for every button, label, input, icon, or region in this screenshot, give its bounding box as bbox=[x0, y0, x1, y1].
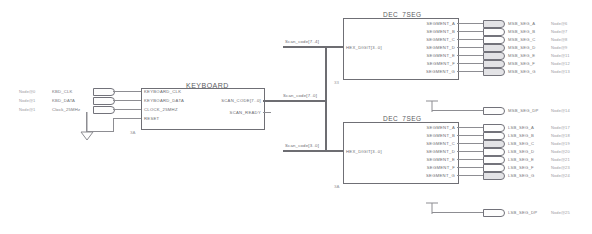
output-label-msb-seg-f: MSB_SEG_F bbox=[508, 61, 535, 66]
output-label-lsb-seg-c: LSB_SEG_C bbox=[508, 141, 534, 146]
output-pin-msb-seg-d[interactable] bbox=[483, 44, 505, 52]
keyboard-port-reset: RESET bbox=[144, 116, 159, 121]
output-label-lsb-seg-a: LSB_SEG_A bbox=[508, 125, 534, 130]
dec-lsb-port-segment-b: SEGMENT_B bbox=[377, 133, 455, 138]
wire-msb-c bbox=[457, 39, 483, 40]
dec-lsb-port-segment-g: SEGMENT_G bbox=[377, 173, 455, 178]
wire-msb-d bbox=[457, 47, 483, 48]
output-pin-lsb-seg-c[interactable] bbox=[483, 140, 505, 148]
output-label-lsb-seg-d: LSB_SEG_D bbox=[508, 149, 534, 154]
output-node-msb-seg-dp: Node@14 bbox=[551, 108, 570, 113]
keyboard-port-clk: KEYBOARD_CLK bbox=[144, 89, 181, 94]
input-label-kbd-clk: KBD_CLK bbox=[52, 89, 73, 94]
dec-msb-port-segment-g: SEGMENT_G bbox=[377, 69, 455, 74]
bus-riser-lsb bbox=[325, 100, 327, 150]
output-node-msb-seg-a: Node@6 bbox=[551, 21, 567, 26]
output-label-msb-seg-a: MSB_SEG_A bbox=[508, 21, 535, 26]
schematic-sheet: Node@0 KBD_CLK Node@1 KBD_DATA Node@1 Cl… bbox=[0, 0, 592, 234]
dec-lsb-port-segment-a: SEGMENT_A bbox=[377, 125, 455, 130]
output-label-msb-seg-g: MSB_SEG_G bbox=[508, 69, 536, 74]
output-pin-msb-seg-e[interactable] bbox=[483, 52, 505, 60]
output-node-lsb-seg-dp: Node@25 bbox=[551, 210, 570, 215]
output-pin-msb-seg-dp[interactable] bbox=[483, 107, 505, 115]
output-pin-lsb-seg-g[interactable] bbox=[483, 172, 505, 180]
dec-lsb-port-segment-c: SEGMENT_C bbox=[377, 141, 455, 146]
output-node-lsb-seg-g: Node@24 bbox=[551, 173, 570, 178]
dec-msb-port-segment-e: SEGMENT_E bbox=[377, 53, 455, 58]
wire-msb-f bbox=[457, 63, 483, 64]
wire-msb-e bbox=[457, 55, 483, 56]
wire-lsb-c bbox=[457, 143, 483, 144]
dec-lsb-title: DEC_7SEG bbox=[383, 115, 422, 122]
output-pin-lsb-seg-b[interactable] bbox=[483, 132, 505, 140]
output-pin-msb-seg-c[interactable] bbox=[483, 36, 505, 44]
dec-msb-port-segment-c: SEGMENT_C bbox=[377, 37, 455, 42]
output-pin-lsb-seg-e[interactable] bbox=[483, 156, 505, 164]
dec-msb-port-segment-d: SEGMENT_D bbox=[377, 45, 455, 50]
output-label-lsb-seg-dp: LSB_SEG_DP bbox=[508, 210, 537, 215]
bus-label-scan-code-lsb: Scan_code[3..0] bbox=[285, 143, 319, 148]
output-node-lsb-seg-b: Node@18 bbox=[551, 133, 570, 138]
output-label-msb-seg-c: MSB_SEG_C bbox=[508, 37, 535, 42]
wire-reset bbox=[113, 118, 141, 119]
input-label-kbd-data: KBD_DATA bbox=[52, 98, 75, 103]
wire-clock-25mhz bbox=[113, 109, 141, 110]
output-pin-lsb-seg-f[interactable] bbox=[483, 164, 505, 172]
output-node-msb-seg-c: Node@8 bbox=[551, 37, 567, 42]
dec-msb-instance-label: 33 bbox=[334, 80, 339, 85]
dec-msb-port-segment-f: SEGMENT_F bbox=[377, 61, 455, 66]
wire-reset-drop bbox=[113, 118, 114, 132]
vcc-symbol-msb-dp bbox=[424, 98, 440, 118]
vcc-symbol-lsb-dp bbox=[424, 200, 440, 220]
output-node-lsb-seg-c: Node@19 bbox=[551, 141, 570, 146]
bus-scan-code-msb bbox=[283, 46, 343, 48]
output-pin-msb-seg-a[interactable] bbox=[483, 20, 505, 28]
output-pin-lsb-seg-d[interactable] bbox=[483, 148, 505, 156]
output-node-msb-seg-d: Node@9 bbox=[551, 45, 567, 50]
output-node-lsb-seg-a: Node@17 bbox=[551, 125, 570, 130]
wire-lsb-g bbox=[457, 175, 483, 176]
output-label-msb-seg-b: MSB_SEG_B bbox=[508, 29, 535, 34]
output-pin-lsb-seg-a[interactable] bbox=[483, 124, 505, 132]
output-node-msb-seg-f: Node@12 bbox=[551, 61, 570, 66]
wire-msb-b bbox=[457, 31, 483, 32]
input-label-clock-25mhz: Clock_25MHz bbox=[52, 107, 80, 112]
input-node-label-0: Node@0 bbox=[19, 89, 35, 94]
output-pin-lsb-seg-dp[interactable] bbox=[483, 209, 505, 217]
bus-label-scan-code-msb: Scan_code[7..4] bbox=[285, 39, 319, 44]
output-pin-msb-seg-g[interactable] bbox=[483, 68, 505, 76]
input-pin-kbd-clk[interactable] bbox=[93, 88, 115, 96]
output-label-msb-seg-dp: MSB_SEG_DP bbox=[508, 108, 538, 113]
output-pin-msb-seg-f[interactable] bbox=[483, 60, 505, 68]
dec-msb-title: DEC_7SEG bbox=[383, 11, 422, 18]
keyboard-instance-label: 3A bbox=[130, 130, 135, 135]
wire-msb-a bbox=[457, 23, 483, 24]
gnd-symbol bbox=[78, 112, 96, 146]
bus-label-scan-code-main: Scan_code[7..0] bbox=[283, 93, 317, 98]
output-label-lsb-seg-f: LSB_SEG_F bbox=[508, 165, 534, 170]
dec-msb-port-segment-b: SEGMENT_B bbox=[377, 29, 455, 34]
output-label-lsb-seg-b: LSB_SEG_B bbox=[508, 133, 534, 138]
output-label-lsb-seg-g: LSB_SEG_G bbox=[508, 173, 534, 178]
wire-lsb-b bbox=[457, 135, 483, 136]
wire-lsb-a bbox=[457, 127, 483, 128]
wire-msb-dp bbox=[432, 110, 483, 111]
dec-lsb-port-segment-d: SEGMENT_D bbox=[377, 149, 455, 154]
input-node-label-1: Node@1 bbox=[19, 98, 35, 103]
bus-scan-code-main bbox=[263, 100, 325, 102]
output-label-msb-seg-d: MSB_SEG_D bbox=[508, 45, 535, 50]
bus-scan-code-lsb bbox=[283, 150, 343, 152]
input-pin-clock-25mhz[interactable] bbox=[93, 106, 115, 114]
wire-lsb-e bbox=[457, 159, 483, 160]
output-label-msb-seg-e: MSB_SEG_E bbox=[508, 53, 535, 58]
wire-lsb-dp bbox=[432, 212, 483, 213]
output-node-msb-seg-e: Node@11 bbox=[551, 53, 569, 58]
wire-lsb-f bbox=[457, 167, 483, 168]
output-node-lsb-seg-e: Node@21 bbox=[551, 157, 570, 162]
input-pin-kbd-data[interactable] bbox=[93, 97, 115, 105]
keyboard-port-data: KEYBOARD_DATA bbox=[144, 98, 184, 103]
output-node-msb-seg-g: Node@13 bbox=[551, 69, 570, 74]
output-pin-msb-seg-b[interactable] bbox=[483, 28, 505, 36]
bus-riser-msb bbox=[325, 46, 327, 102]
wire-lsb-d bbox=[457, 151, 483, 152]
